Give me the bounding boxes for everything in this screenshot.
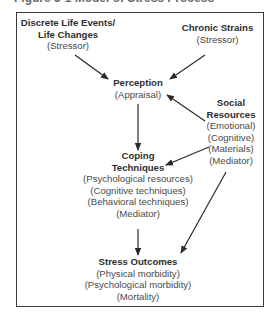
node-subtitle: (Cognitive) — [200, 132, 262, 144]
node-stress-outcomes: Stress Outcomes (Physical morbidity) (Ps… — [78, 256, 198, 302]
node-life-events: Discrete Life Events/ Life Changes (Stre… — [18, 17, 118, 52]
node-title: Chronic Strains — [170, 22, 265, 34]
node-title: Coping — [78, 150, 198, 162]
node-chronic-strains: Chronic Strains (Stressor) — [170, 22, 265, 45]
node-subtitle: (Psychological resources) — [78, 173, 198, 185]
node-title: Techniques — [78, 162, 198, 174]
node-title: Life Changes — [18, 29, 118, 41]
node-subtitle: (Materials) — [200, 143, 262, 155]
node-subtitle: (Mediator) — [200, 155, 262, 167]
node-title: Perception — [98, 77, 178, 89]
node-title: Resources — [200, 109, 262, 121]
node-subtitle: (Appraisal) — [98, 89, 178, 101]
node-subtitle: (Physical morbidity) — [78, 268, 198, 280]
node-subtitle: (Behavioral techniques) — [78, 196, 198, 208]
node-title: Discrete Life Events/ — [18, 17, 118, 29]
node-subtitle: (Stressor) — [18, 40, 118, 52]
node-subtitle: (Psychological morbidity) — [78, 279, 198, 291]
node-perception: Perception (Appraisal) — [98, 77, 178, 100]
arrow-chronic-to-perception — [170, 55, 205, 79]
node-subtitle: (Mortality) — [78, 291, 198, 303]
node-subtitle: (Cognitive techniques) — [78, 185, 198, 197]
node-subtitle: (Emotional) — [200, 120, 262, 132]
arrow-life-events-to-perception — [75, 55, 108, 79]
node-coping-techniques: Coping Techniques (Psychological resourc… — [78, 150, 198, 220]
node-subtitle: (Stressor) — [170, 34, 265, 46]
node-title: Social — [200, 97, 262, 109]
node-title: Stress Outcomes — [78, 256, 198, 268]
node-subtitle: (Mediator) — [78, 208, 198, 220]
node-social-resources: Social Resources (Emotional) (Cognitive)… — [200, 97, 262, 167]
